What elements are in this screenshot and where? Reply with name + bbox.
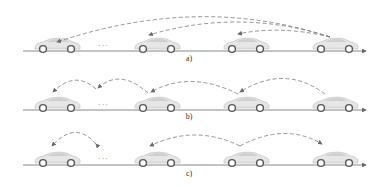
- car-4: [313, 38, 358, 52]
- panel-b: ··· b): [0, 62, 382, 124]
- panel-c: ··· c): [0, 124, 382, 187]
- arrow-3-to-4: [240, 133, 322, 146]
- panel-label: c): [174, 169, 204, 178]
- car-3: [224, 97, 269, 111]
- car-2: [135, 152, 180, 166]
- car-1: [35, 152, 80, 166]
- ellipsis: ···: [98, 41, 109, 50]
- arrow-3-to-2: [150, 135, 240, 146]
- car-3: [224, 38, 269, 52]
- panel-a: ··· a): [0, 0, 382, 62]
- arrow-4-to-3: [238, 30, 330, 37]
- arrow-dots-to-1: [53, 80, 96, 92]
- ellipsis: ···: [98, 154, 109, 163]
- arrow-4-to-1: [57, 17, 330, 42]
- car-2: [135, 97, 180, 111]
- arrow-4-to-2: [149, 22, 330, 37]
- car-1: [35, 38, 80, 52]
- panel-label: b): [174, 112, 204, 121]
- arrow-1-dots: [52, 132, 96, 146]
- car-1: [35, 97, 80, 111]
- car-2: [135, 38, 180, 52]
- arrow-2-to-dots: [98, 79, 148, 93]
- panel-a-diagram: [0, 0, 382, 62]
- arrow-3-to-2: [151, 81, 238, 94]
- car-4: [313, 152, 358, 166]
- ellipsis: ···: [98, 100, 109, 109]
- car-3: [224, 152, 269, 166]
- car-4: [313, 97, 358, 111]
- arrow-4-to-3: [240, 78, 325, 94]
